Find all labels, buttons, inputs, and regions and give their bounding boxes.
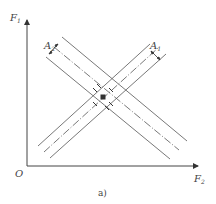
label-a1: A1 [149,40,161,52]
origin-label: O [15,168,23,179]
center-point [101,95,105,99]
x-axis-label: F2 [193,173,205,185]
ascending-band [38,44,166,158]
label-a2: A2 [43,40,55,52]
figure-caption: a) [98,188,107,198]
dimension-a1 [151,51,160,60]
intersection-markers [93,84,113,110]
tolerance-zone-diagram: A2 A1 F1 F2 O a) [0,0,216,204]
y-axis-label: F1 [9,12,21,24]
